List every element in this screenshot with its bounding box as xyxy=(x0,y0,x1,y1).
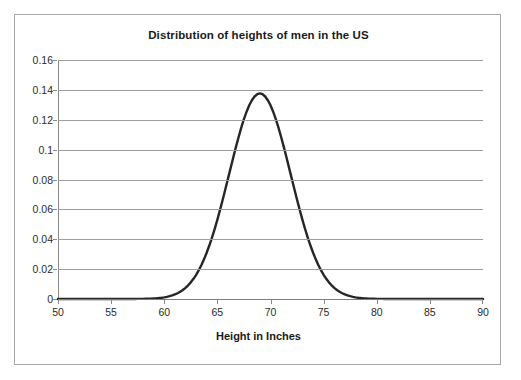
y-tick-label: 0.06 xyxy=(33,203,53,215)
y-tick-label: 0.02 xyxy=(33,263,53,275)
y-tick-label: 0.1 xyxy=(38,144,53,156)
y-tick-mark xyxy=(53,209,57,210)
gridline xyxy=(58,209,483,210)
x-axis-tick-marks xyxy=(58,300,483,305)
gridline xyxy=(58,180,483,181)
y-tick-mark xyxy=(53,150,57,151)
y-tick-label: 0.12 xyxy=(33,114,53,126)
x-tick-mark xyxy=(271,300,272,304)
gridline xyxy=(58,90,483,91)
gridline xyxy=(58,120,483,121)
y-tick-mark xyxy=(53,60,57,61)
y-tick-mark xyxy=(53,180,57,181)
gridline xyxy=(58,239,483,240)
y-tick-mark xyxy=(53,299,57,300)
y-axis-tick-labels: 00.020.040.060.080.10.120.140.16 xyxy=(15,60,53,299)
x-tick-label: 70 xyxy=(265,306,277,318)
x-axis-title: Height in Inches xyxy=(15,330,502,342)
chart-frame: Distribution of heights of men in the US… xyxy=(14,14,501,365)
y-tick-label: 0.16 xyxy=(33,54,53,66)
x-tick-label: 85 xyxy=(424,306,436,318)
gridline xyxy=(58,150,483,151)
x-tick-label: 75 xyxy=(318,306,330,318)
y-tick-mark xyxy=(53,269,57,270)
y-tick-mark xyxy=(53,239,57,240)
x-tick-mark xyxy=(111,300,112,304)
x-tick-label: 90 xyxy=(477,306,489,318)
x-tick-mark xyxy=(164,300,165,304)
x-tick-mark xyxy=(58,300,59,304)
y-tick-mark xyxy=(53,90,57,91)
y-tick-label: 0.08 xyxy=(33,174,53,186)
x-tick-mark xyxy=(217,300,218,304)
y-tick-mark xyxy=(53,120,57,121)
x-tick-label: 80 xyxy=(371,306,383,318)
x-tick-label: 65 xyxy=(212,306,224,318)
x-tick-mark xyxy=(430,300,431,304)
plot-area xyxy=(58,60,483,299)
x-tick-mark xyxy=(324,300,325,304)
x-axis-tick-labels: 505560657075808590 xyxy=(58,306,483,322)
x-tick-label: 50 xyxy=(52,306,64,318)
gridline xyxy=(58,60,483,61)
x-tick-label: 55 xyxy=(105,306,117,318)
x-tick-mark xyxy=(482,300,483,304)
y-tick-label: 0.14 xyxy=(33,84,53,96)
gridline xyxy=(58,269,483,270)
x-tick-label: 60 xyxy=(158,306,170,318)
chart-title: Distribution of heights of men in the US xyxy=(15,29,502,41)
x-tick-mark xyxy=(377,300,378,304)
y-tick-label: 0.04 xyxy=(33,233,53,245)
